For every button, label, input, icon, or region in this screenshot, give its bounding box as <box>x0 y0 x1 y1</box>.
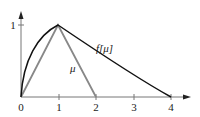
x-tick-3: 3 <box>131 101 137 113</box>
y-tick-1: 1 <box>10 19 16 31</box>
mu-curve <box>21 25 96 97</box>
f-mu-label: f[μ] <box>96 42 113 54</box>
x-tick-0: 0 <box>18 101 24 113</box>
x-tick-1: 1 <box>56 101 62 113</box>
y-axis-arrow-icon <box>19 11 24 19</box>
membership-function-diagram: 0 1 2 3 4 1 μ f[μ] <box>0 0 200 117</box>
axes <box>21 17 186 97</box>
mu-label: μ <box>69 62 76 74</box>
x-tick-4: 4 <box>168 101 174 113</box>
f-mu-curve <box>21 25 171 97</box>
x-axis-arrow-icon <box>183 95 191 100</box>
x-tick-2: 2 <box>93 101 99 113</box>
ticks <box>18 25 171 100</box>
